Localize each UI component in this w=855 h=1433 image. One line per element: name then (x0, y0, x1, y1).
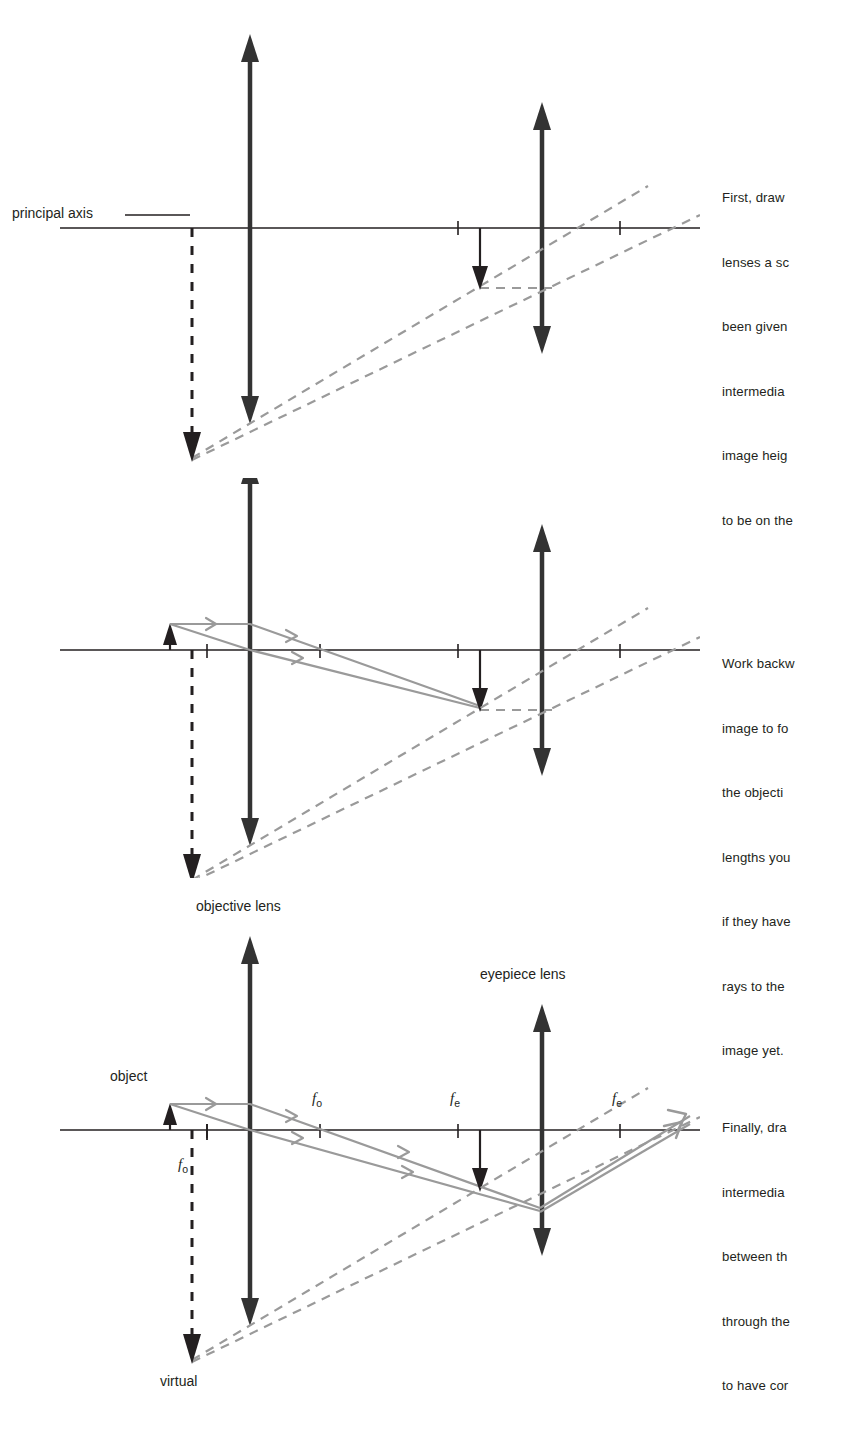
note-line: image yet. (722, 1040, 855, 1062)
ray-diagram-2 (0, 478, 700, 878)
object-rays (170, 1104, 540, 1211)
note-line: if they have (722, 911, 855, 933)
focal-label-objective-left: fo (178, 1156, 188, 1175)
virtual-image-rays (192, 608, 700, 878)
note-line: to have cor (722, 1375, 855, 1397)
note-line: intermedia (722, 381, 855, 403)
virtual-image-rays (192, 1088, 700, 1362)
intermediate-image-arrow (472, 650, 488, 712)
panel-second-step: Work backw image to fo the objecti lengt… (0, 478, 700, 878)
focal-subscript: e (616, 1097, 622, 1109)
note-line: lenses a sc (722, 252, 855, 274)
focal-label-objective-right: fo (312, 1090, 322, 1109)
eyepiece-lens-label: eyepiece lens (480, 966, 566, 982)
note-final-step: Finally, dra intermedia between th throu… (722, 1074, 855, 1433)
focal-subscript: e (454, 1097, 460, 1109)
object-arrow (163, 623, 177, 650)
focal-label-eyepiece-right: fe (612, 1090, 622, 1109)
note-line: intermedia (722, 1182, 855, 1204)
note-line: lengths you (722, 847, 855, 869)
virtual-image-rays (192, 186, 700, 460)
panel-first-step: principal axis First, draw lenses a sc b… (0, 0, 700, 478)
note-line: been given (722, 316, 855, 338)
ray-diagram-1 (0, 0, 700, 478)
note-line: Finally, dra (722, 1117, 855, 1139)
note-line: First, draw (722, 187, 855, 209)
virtual-image-construction-line (183, 650, 201, 878)
object-label: object (110, 1068, 147, 1084)
objective-lens (241, 478, 259, 846)
note-line: to be on the (722, 510, 855, 532)
note-line: image heig (722, 445, 855, 467)
principal-axis-label: principal axis (12, 205, 93, 221)
virtual-image-construction-line (183, 228, 201, 462)
objective-lens-label: objective lens (196, 898, 281, 914)
intermediate-image-arrow (472, 1130, 488, 1192)
virtual-label: virtual (160, 1373, 197, 1389)
note-line: between th (722, 1246, 855, 1268)
note-line: Work backw (722, 653, 855, 675)
focal-subscript: o (182, 1163, 188, 1175)
objective-lens (241, 34, 259, 424)
focal-subscript: o (316, 1097, 322, 1109)
focal-label-eyepiece-left: fe (450, 1090, 460, 1109)
note-line: image to fo (722, 718, 855, 740)
note-second-step: Work backw image to fo the objecti lengt… (722, 610, 855, 1105)
object-arrow (163, 1103, 177, 1130)
note-line: through the (722, 1311, 855, 1333)
ray-diagram-3 (0, 878, 700, 1433)
intermediate-image-arrow (472, 228, 488, 290)
note-line: rays to the (722, 976, 855, 998)
note-line: the objecti (722, 782, 855, 804)
panel-final-step: objective lens eyepiece lens object virt… (0, 878, 700, 1433)
object-rays (170, 624, 480, 708)
note-first-step: First, draw lenses a sc been given inter… (722, 144, 855, 574)
